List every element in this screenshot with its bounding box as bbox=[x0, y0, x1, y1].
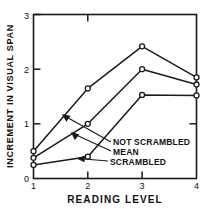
data-point bbox=[194, 93, 199, 98]
xtick-label-2: 2 bbox=[85, 181, 90, 191]
data-point bbox=[194, 75, 199, 80]
data-point bbox=[140, 44, 145, 49]
x-axis-title: READING LEVEL bbox=[67, 194, 162, 205]
series-not-scrambled-line bbox=[34, 46, 197, 151]
ytick-label-1: 1 bbox=[24, 119, 29, 129]
xtick-label-4: 4 bbox=[194, 181, 199, 191]
xtick-label-3: 3 bbox=[140, 181, 145, 191]
data-point bbox=[31, 149, 36, 154]
annotation-mean: MEAN bbox=[113, 147, 139, 157]
y-axis-title: INCREMENT IN VISUAL SPAN bbox=[5, 24, 15, 168]
line-chart: NOT SCRAMBLED MEAN SCRAMBLED 0 1 2 3 1 2… bbox=[0, 0, 212, 209]
data-point bbox=[31, 162, 36, 167]
data-point bbox=[31, 155, 36, 160]
leader-not-scrambled bbox=[63, 115, 111, 142]
arrowhead bbox=[72, 133, 78, 139]
arrowhead bbox=[63, 115, 70, 121]
annotation-not-scrambled: NOT SCRAMBLED bbox=[113, 137, 190, 147]
ytick-label-0: 0 bbox=[24, 174, 29, 184]
data-point bbox=[85, 121, 90, 126]
annotation-scrambled: SCRAMBLED bbox=[110, 157, 166, 167]
figure-container: NOT SCRAMBLED MEAN SCRAMBLED 0 1 2 3 1 2… bbox=[0, 0, 212, 209]
data-point bbox=[140, 92, 145, 97]
ytick-label-3: 3 bbox=[24, 11, 29, 21]
xtick-label-1: 1 bbox=[31, 181, 36, 191]
data-point bbox=[140, 67, 145, 72]
ytick-label-2: 2 bbox=[24, 65, 29, 75]
data-point bbox=[194, 82, 199, 87]
data-point bbox=[85, 86, 90, 91]
arrowhead bbox=[78, 156, 84, 161]
data-point bbox=[85, 154, 90, 159]
